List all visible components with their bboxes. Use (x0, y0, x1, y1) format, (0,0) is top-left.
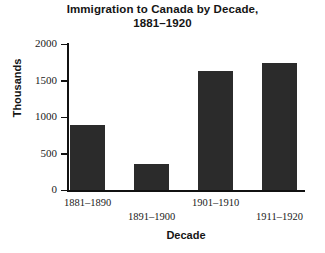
y-tick-label-1500: 1500 (5, 74, 57, 86)
x-tick-label-1911-1920: 1911–1920 (240, 211, 320, 222)
y-tick-1000 (61, 117, 68, 119)
bar-1881-1890[interactable] (70, 125, 105, 190)
y-tick-label-1000: 1000 (5, 110, 57, 122)
y-tick-1500 (61, 80, 68, 82)
y-tick-2000 (61, 44, 68, 46)
bar-chart: Immigration to Canada by Decade, 1881–19… (0, 0, 325, 253)
chart-title-line-1: Immigration to Canada by Decade, (67, 3, 259, 15)
y-tick-label-500: 500 (5, 147, 57, 159)
y-tick-label-0: 0 (5, 183, 57, 195)
bar-1911-1920[interactable] (262, 63, 297, 191)
bar-1891-1900[interactable] (134, 164, 169, 190)
x-tick-label-1891-1900: 1891–1900 (112, 211, 192, 222)
y-tick-0 (61, 190, 68, 192)
x-tick-label-1881-1890: 1881–1890 (48, 197, 128, 208)
x-axis-line (67, 190, 305, 192)
x-axis-title: Decade (67, 229, 305, 241)
chart-title: Immigration to Canada by Decade, 1881–19… (0, 2, 325, 30)
y-tick-500 (61, 153, 68, 155)
y-tick-label-2000: 2000 (5, 37, 57, 49)
x-tick-label-1901-1910: 1901–1910 (176, 197, 256, 208)
chart-title-line-2: 1881–1920 (0, 16, 325, 30)
bar-1901-1910[interactable] (198, 71, 233, 190)
